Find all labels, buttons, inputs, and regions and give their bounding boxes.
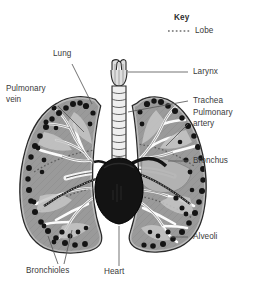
key-title: Key <box>174 13 189 22</box>
left-lung <box>15 92 110 260</box>
label-larynx: Larynx <box>193 67 218 78</box>
label-pulmonary-vein-line1: Pulmonary <box>6 84 46 95</box>
label-pulmonary-artery-line2: artery <box>193 119 214 130</box>
key-entry-lobe-label: Lobe <box>195 26 213 37</box>
label-heart: Heart <box>104 267 124 278</box>
label-alveoli: Alveoli <box>193 232 217 243</box>
label-lung: Lung <box>53 49 71 60</box>
label-pulmonary-artery-line1: Pulmonary <box>193 108 233 119</box>
label-bronchus: Bronchus <box>193 156 228 167</box>
respiratory-system-illustration <box>0 0 254 286</box>
diagram-canvas: Key Lobe Lung Pulmonary vein Bronchioles… <box>0 0 254 286</box>
larynx-shape <box>111 60 127 86</box>
label-bronchioles: Bronchioles <box>26 266 69 277</box>
label-trachea: Trachea <box>193 96 223 107</box>
label-pulmonary-vein-line2: vein <box>6 95 21 106</box>
